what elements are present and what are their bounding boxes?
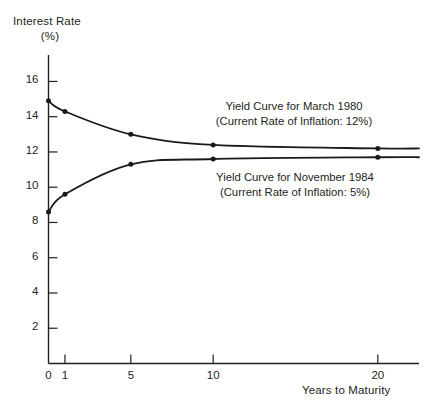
y-axis-tick-label: 8: [17, 214, 39, 226]
data-point-marker: [375, 146, 380, 151]
data-point-marker: [211, 142, 216, 147]
series-line: [49, 101, 420, 149]
data-point-marker: [128, 132, 133, 137]
data-point-marker: [128, 162, 133, 167]
data-point-marker: [62, 109, 67, 114]
x-axis-tick-label: 10: [202, 369, 224, 381]
y-axis-tick-label: 6: [17, 250, 39, 262]
x-axis-tick-label: 1: [54, 369, 76, 381]
series-line: [49, 157, 420, 212]
x-axis-ticks: [65, 355, 378, 364]
x-axis-tick-label: 20: [367, 369, 389, 381]
y-axis-tick-label: 2: [17, 320, 39, 332]
x-axis-tick-label: 5: [120, 369, 142, 381]
yield-curve-chart: Interest Rate(%) Years to Maturity Yield…: [0, 0, 433, 419]
data-point-marker: [62, 192, 67, 197]
data-point-marker: [375, 155, 380, 160]
axes: [49, 55, 420, 364]
series-2: [46, 155, 419, 215]
plot-area: [0, 0, 433, 419]
y-axis-tick-label: 10: [17, 179, 39, 191]
data-point-marker: [46, 209, 51, 214]
y-axis-tick-label: 14: [17, 109, 39, 121]
series-1: [46, 98, 419, 151]
y-axis-tick-label: 12: [17, 144, 39, 156]
data-series: [46, 98, 419, 214]
y-axis-tick-label: 16: [17, 73, 39, 85]
data-point-marker: [46, 98, 51, 103]
y-axis-tick-label: 4: [17, 285, 39, 297]
data-point-marker: [211, 157, 216, 162]
